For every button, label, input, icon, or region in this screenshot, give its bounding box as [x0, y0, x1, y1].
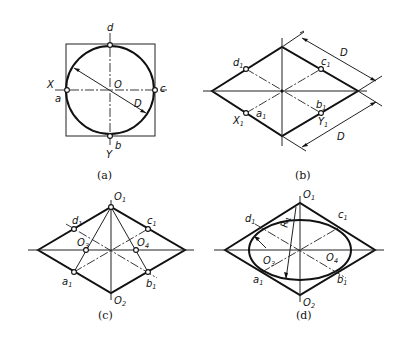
- point-b: [108, 134, 113, 139]
- label-O3: O3: [263, 255, 275, 268]
- label-O4: O4: [326, 252, 338, 265]
- label-O3: O3: [77, 237, 89, 250]
- point-O4: [134, 248, 139, 253]
- caption-d: (d): [296, 309, 312, 322]
- extension-line: [282, 136, 306, 151]
- label-Y1: Y1: [318, 116, 328, 129]
- label-O1: O1: [114, 191, 126, 204]
- label-a1: a1: [253, 274, 263, 287]
- arrowhead: [254, 236, 260, 241]
- label-d1: d1: [233, 57, 244, 70]
- label-O4: O4: [137, 237, 149, 250]
- label-Y: Y: [106, 149, 113, 160]
- label-a1: a1: [62, 276, 72, 289]
- extension-line: [358, 76, 382, 91]
- label-c: c: [160, 83, 166, 94]
- label-X1: X1: [232, 115, 244, 128]
- label-c1: c1: [147, 215, 157, 228]
- label-X: X: [46, 79, 55, 90]
- label-c1: c1: [338, 209, 348, 222]
- label-R1: R1: [278, 215, 293, 228]
- dimension-line-top: [302, 38, 376, 81]
- isometric-circle-construction-figure: d X a O c D b Y (a) D D d1: [0, 0, 407, 341]
- panel-c: O1 O2 O3 O4 d1 c1 a1 b1 (c): [28, 191, 194, 322]
- caption-b: (b): [295, 169, 311, 182]
- label-b1: b1: [337, 274, 348, 287]
- caption-a: (a): [97, 169, 112, 182]
- label-a: a: [55, 93, 61, 104]
- center-point: [280, 89, 283, 92]
- point-a: [65, 88, 70, 93]
- extension-line: [358, 91, 382, 106]
- panel-d: R1 O1 O2 O3 O4 d1 c1 a1 b1 (d): [214, 189, 384, 322]
- label-O: O: [114, 79, 122, 90]
- label-b: b: [115, 140, 121, 151]
- label-O1: O1: [303, 189, 315, 202]
- extension-line: [282, 32, 304, 47]
- label-d: d: [107, 22, 114, 33]
- label-D-top: D: [340, 47, 348, 58]
- point-a1: [244, 111, 249, 116]
- point-O1: [109, 205, 114, 210]
- panel-b: D D d1 c1 X1 a1 b1 Y1 (b): [203, 31, 382, 182]
- label-d1: d1: [245, 213, 256, 226]
- label-b1: b1: [316, 99, 327, 112]
- point-d1: [72, 227, 77, 232]
- point-c1: [146, 227, 151, 232]
- label-b1: b1: [146, 278, 157, 291]
- point-c1: [319, 67, 324, 72]
- point-d1: [244, 67, 249, 72]
- point-a1: [72, 270, 77, 275]
- point-d: [108, 43, 113, 48]
- label-a1: a1: [256, 108, 266, 121]
- panel-a: d X a O c D b Y (a): [46, 22, 167, 182]
- point-c: [153, 88, 158, 93]
- label-D: D: [134, 98, 142, 109]
- caption-c: (c): [98, 309, 113, 322]
- point-b1: [146, 270, 151, 275]
- label-O2: O2: [114, 295, 126, 308]
- label-D-bottom: D: [337, 131, 345, 142]
